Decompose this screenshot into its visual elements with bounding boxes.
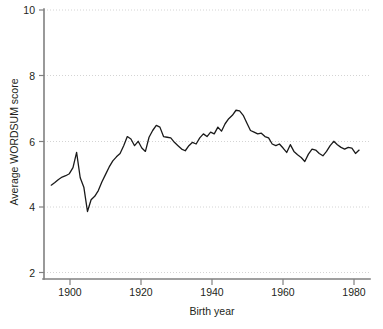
x-axis-title: Birth year bbox=[190, 305, 235, 317]
y-tick-label-4: 4 bbox=[29, 201, 35, 213]
wordsum-series-line bbox=[51, 110, 359, 211]
figure-caption-fragment bbox=[8, 321, 368, 329]
y-tick-label-8: 8 bbox=[29, 70, 35, 82]
x-tick-label-1900: 1900 bbox=[58, 286, 82, 298]
x-axis: 1900 1920 1940 1960 1980 Birth year bbox=[43, 279, 370, 317]
y-axis-title: Average WORDSUM score bbox=[8, 78, 20, 205]
y-tick-label-6: 6 bbox=[29, 136, 35, 148]
x-tick-label-1940: 1940 bbox=[200, 286, 224, 298]
y-tick-label-10: 10 bbox=[23, 4, 35, 16]
x-tick-label-1960: 1960 bbox=[271, 286, 295, 298]
x-tick-label-1920: 1920 bbox=[129, 286, 153, 298]
y-tick-label-2: 2 bbox=[29, 267, 35, 279]
figure-container: 10 8 6 4 2 Average WORDSUM score 1900 19… bbox=[0, 0, 383, 329]
y-axis: 10 8 6 4 2 Average WORDSUM score bbox=[8, 4, 44, 279]
gridlines-group bbox=[44, 10, 370, 273]
x-tick-label-1980: 1980 bbox=[342, 286, 366, 298]
wordsum-line-chart: 10 8 6 4 2 Average WORDSUM score 1900 19… bbox=[0, 0, 383, 329]
